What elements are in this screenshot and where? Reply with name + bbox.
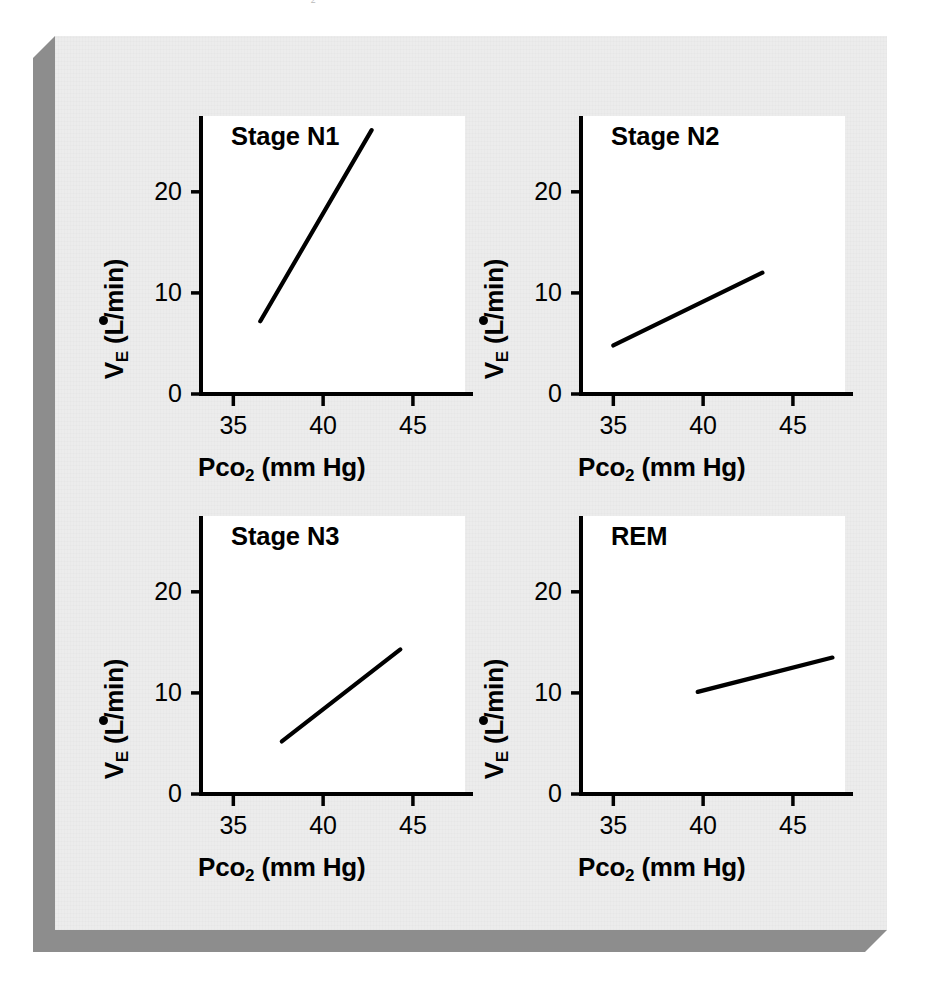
y-axis-label-v: V: [479, 762, 509, 779]
plot-background: [201, 116, 465, 394]
x-tick-label-40: 40: [687, 411, 719, 440]
x-axis-label-units: (mm Hg): [634, 852, 745, 882]
panel-title-rem: REM: [611, 522, 667, 551]
x-axis-label-co: co: [595, 452, 625, 482]
x-axis-label-subscript: 2: [625, 466, 634, 485]
x-axis-label: Pco2 (mm Hg): [198, 852, 365, 886]
panel-title-stage-n1: Stage N1: [231, 122, 339, 151]
y-tick-label-10: 10: [512, 278, 562, 307]
y-tick-label-20: 20: [132, 577, 182, 606]
x-tick-label-40: 40: [307, 411, 339, 440]
y-axis-label-units: (L/min): [479, 659, 509, 751]
y-tick-label-20: 20: [512, 177, 562, 206]
x-tick-label-45: 45: [397, 411, 429, 440]
y-tick-label-0: 0: [512, 779, 562, 808]
x-tick-label-35: 35: [597, 811, 629, 840]
x-tick-label-45: 45: [777, 411, 809, 440]
y-axis-label-subscript: E: [493, 351, 512, 362]
y-tick-label-20: 20: [132, 177, 182, 206]
v-dot-overdot-icon: [99, 716, 108, 725]
x-axis-label: Pco2 (mm Hg): [578, 852, 745, 886]
y-tick-label-10: 10: [132, 678, 182, 707]
y-tick-label-10: 10: [132, 278, 182, 307]
x-axis-label-units: (mm Hg): [254, 452, 365, 482]
x-tick-label-40: 40: [307, 811, 339, 840]
chart-panel-stage-n1: Stage N1 0 10 20 35 40 45 Pco2 (mm Hg) V…: [88, 94, 488, 494]
y-axis-label-v: V: [479, 362, 509, 379]
y-tick-label-10: 10: [512, 678, 562, 707]
x-tick-label-40: 40: [687, 811, 719, 840]
y-axis-label-v: V: [99, 362, 129, 379]
x-tick-label-45: 45: [777, 811, 809, 840]
panel-title-stage-n2: Stage N2: [611, 122, 719, 151]
x-tick-label-45: 45: [397, 811, 429, 840]
chart-panel-rem: REM 0 10 20 35 40 45 Pco2 (mm Hg) VE (L/…: [468, 494, 868, 894]
panel-grid: Stage N1 0 10 20 35 40 45 Pco2 (mm Hg) V…: [33, 36, 887, 952]
x-axis-label-co: co: [215, 852, 245, 882]
x-axis-label-co: co: [215, 452, 245, 482]
y-axis-label-subscript: E: [113, 351, 132, 362]
x-axis-label: Pco2 (mm Hg): [198, 452, 365, 486]
y-tick-label-0: 0: [132, 779, 182, 808]
x-axis-label-p: P: [578, 852, 595, 882]
x-axis-label-subscript: 2: [625, 866, 634, 885]
y-tick-label-0: 0: [132, 379, 182, 408]
chart-panel-stage-n2: Stage N2 0 10 20 35 40 45 Pco2 (mm Hg) V…: [468, 94, 868, 494]
x-tick-label-35: 35: [597, 411, 629, 440]
panel-title-stage-n3: Stage N3: [231, 522, 339, 551]
x-axis-label-subscript: 2: [245, 466, 254, 485]
plot-background: [581, 116, 845, 394]
x-tick-label-35: 35: [217, 811, 249, 840]
y-tick-label-20: 20: [512, 577, 562, 606]
y-axis-label-units: (L/min): [479, 259, 509, 351]
x-axis-label-p: P: [578, 452, 595, 482]
x-axis-label-co: co: [595, 852, 625, 882]
y-axis-label-subscript: E: [113, 751, 132, 762]
x-axis-label-units: (mm Hg): [634, 452, 745, 482]
clipped-header-text: CO2: [0, 0, 942, 8]
chart-panel-stage-n3: Stage N3 0 10 20 35 40 45 Pco2 (mm Hg) V…: [88, 494, 488, 894]
v-dot-overdot-icon: [99, 316, 108, 325]
v-dot-overdot-icon: [479, 716, 488, 725]
plot-background: [581, 516, 845, 794]
plot-background: [201, 516, 465, 794]
x-axis-label: Pco2 (mm Hg): [578, 452, 745, 486]
y-axis-label-subscript: E: [493, 751, 512, 762]
y-axis-label-v: V: [99, 762, 129, 779]
x-tick-label-35: 35: [217, 411, 249, 440]
y-axis-label-units: (L/min): [99, 259, 129, 351]
y-axis-label-units: (L/min): [99, 659, 129, 751]
v-dot-overdot-icon: [479, 316, 488, 325]
x-axis-label-p: P: [198, 852, 215, 882]
x-axis-label-p: P: [198, 452, 215, 482]
y-tick-label-0: 0: [512, 379, 562, 408]
figure-slab: Stage N1 0 10 20 35 40 45 Pco2 (mm Hg) V…: [33, 36, 887, 952]
x-axis-label-units: (mm Hg): [254, 852, 365, 882]
x-axis-label-subscript: 2: [245, 866, 254, 885]
